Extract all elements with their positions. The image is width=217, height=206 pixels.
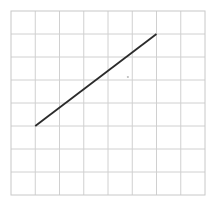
figure-canvas (0, 0, 217, 206)
annotation-marks (127, 76, 129, 78)
faint-mark-icon (127, 76, 129, 78)
grid-plot (0, 0, 217, 206)
